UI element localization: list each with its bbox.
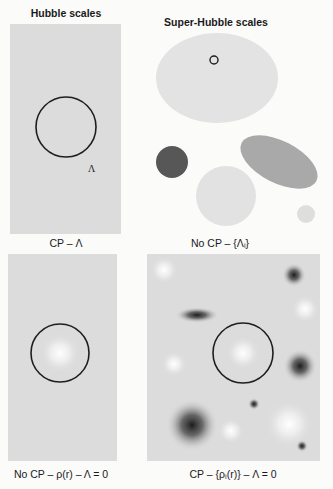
lambda-label: Λ [88,163,95,174]
universe-regions-diagram [145,24,333,234]
panel-no-cp-rho [8,254,117,461]
panel-cp-lambda: Λ [10,24,121,234]
panel-cp-rho-i [147,254,320,461]
caption-cp-rho-i: CP – {ρᵢ(r)} – Λ = 0 [189,468,276,480]
small-light-region [297,205,315,223]
panel-no-cp-lambda-i [145,24,333,234]
large-light-circle-region [196,166,256,226]
caption-cp-lambda: CP – Λ [49,237,82,249]
density-diagram [8,254,117,461]
hubble-circle-icon [10,24,121,234]
caption-no-cp-rho: No CP – ρ(r) – Λ = 0 [14,468,108,480]
bright-overdensity [40,333,80,373]
heading-hubble-scales: Hubble scales [31,7,102,19]
dark-region [156,146,188,178]
large-light-region [156,33,278,123]
fluctuations-diagram [147,254,320,461]
caption-no-cp-lambda-i: No CP – {Λᵢ} [191,237,249,249]
